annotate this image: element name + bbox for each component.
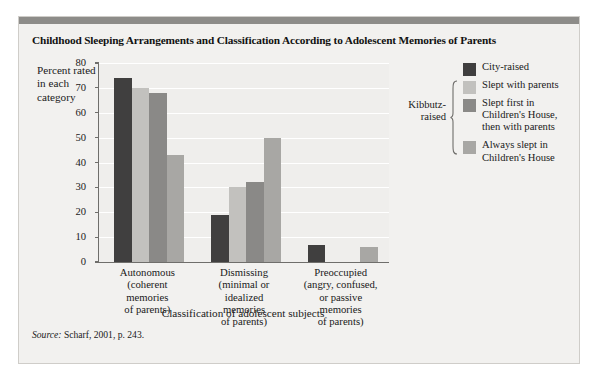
- legend-swatch: [463, 141, 476, 154]
- y-axis-tick-label: 10: [46, 237, 86, 248]
- y-axis-tick-label: 60: [46, 113, 86, 124]
- x-axis-line: [99, 262, 389, 263]
- bar-group: [211, 63, 281, 262]
- kibbutz-raised-label: Kibbutz-raised: [396, 99, 446, 123]
- bar-group: [114, 63, 184, 262]
- x-axis-title: Classification of adolescent subjects: [98, 307, 388, 319]
- legend-label-line: Slept first in: [482, 97, 582, 109]
- legend-label-line: City-raised: [482, 61, 582, 73]
- y-axis-tick-mark: [95, 112, 99, 113]
- source-text: Scharf, 2001, p. 243.: [64, 329, 144, 340]
- legend-item[interactable]: Slept first inChildren's House,then with…: [444, 97, 576, 136]
- bar: [246, 182, 264, 262]
- legend-item[interactable]: City-raised: [444, 61, 576, 76]
- y-axis-tick-mark: [95, 62, 99, 63]
- y-axis-tick-label: 30: [46, 187, 86, 198]
- y-axis-tick-label: 80: [46, 63, 86, 74]
- kibbutz-raised-label-line: raised: [396, 111, 446, 123]
- x-axis-category-line: or passive: [284, 291, 397, 303]
- legend: City-raisedSlept with parentsSlept first…: [444, 61, 576, 170]
- bar: [149, 93, 167, 262]
- y-axis-tick-label: 70: [46, 88, 86, 99]
- legend-item[interactable]: Always slept inChildren's House: [444, 139, 576, 166]
- plot-area: 01020304050607080Autonomous(coherentmemo…: [98, 63, 388, 262]
- y-axis-tick-mark: [95, 212, 99, 213]
- bar: [167, 155, 185, 262]
- plot-canvas: 01020304050607080Autonomous(coherentmemo…: [98, 63, 389, 262]
- y-axis-tick-mark: [95, 187, 99, 188]
- legend-label-line: Always slept in: [482, 139, 582, 151]
- y-axis-tick-label: 50: [46, 138, 86, 149]
- legend-label: City-raised: [482, 61, 582, 73]
- top-accent-bar: [19, 17, 579, 24]
- y-axis-tick-label: 0: [46, 262, 86, 273]
- bar: [229, 187, 247, 262]
- legend-label: Always slept inChildren's House: [482, 139, 582, 163]
- legend-label: Slept with parents: [482, 79, 582, 91]
- y-axis-tick-mark: [95, 237, 99, 238]
- legend-item[interactable]: Slept with parents: [444, 79, 576, 94]
- legend-swatch: [463, 99, 476, 112]
- y-axis-tick-mark: [95, 137, 99, 138]
- y-axis-tick-label: 40: [46, 163, 86, 174]
- legend-label-line: Children's House: [482, 152, 582, 164]
- page-title: Childhood Sleeping Arrangements and Clas…: [32, 34, 572, 46]
- legend-swatch: [463, 63, 476, 76]
- bar: [264, 138, 282, 262]
- y-axis-tick-mark: [95, 87, 99, 88]
- bar: [114, 78, 132, 262]
- legend-label: Slept first inChildren's House,then with…: [482, 97, 582, 133]
- legend-swatch: [463, 81, 476, 94]
- x-axis-category-line: (angry, confused,: [284, 278, 397, 290]
- bar: [360, 247, 378, 262]
- x-axis-category-line: Preoccupied: [284, 266, 397, 278]
- bar: [211, 215, 229, 262]
- legend-label-line: Children's House,: [482, 109, 582, 121]
- y-axis-tick-mark: [95, 162, 99, 163]
- legend-label-line: Slept with parents: [482, 79, 582, 91]
- figure-panel: Childhood Sleeping Arrangements and Clas…: [18, 16, 580, 364]
- kibbutz-bracket-icon: [449, 80, 458, 155]
- bar-group: [308, 63, 378, 262]
- y-axis-tick-mark: [95, 261, 99, 262]
- y-axis-tick-label: 20: [46, 212, 86, 223]
- bar: [132, 88, 150, 262]
- bar: [308, 245, 326, 262]
- source-prefix: Source:: [32, 329, 61, 340]
- legend-label-line: then with parents: [482, 121, 582, 133]
- source-note: Source: Scharf, 2001, p. 243.: [32, 329, 144, 340]
- kibbutz-raised-label-line: Kibbutz-: [396, 99, 446, 111]
